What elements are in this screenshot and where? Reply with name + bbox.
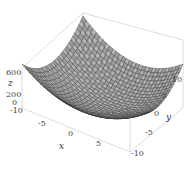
- y-tick-0: 0: [154, 109, 159, 118]
- y-axis-label: y: [165, 112, 172, 122]
- z-tick-600: 600: [6, 68, 21, 77]
- x-tick-neg5: -5: [38, 119, 46, 128]
- paraboloid-surface: [22, 16, 183, 119]
- x-tick-5: 5: [96, 139, 101, 148]
- y-tick-10: 10: [172, 75, 182, 84]
- surface-plot-3d: 600 z 200 0 -10 -5 0 5 x -10 -5 0 5 10 y: [0, 0, 190, 171]
- y-tick-neg10: -10: [131, 149, 144, 158]
- z-axis: 600 z 200 0: [6, 68, 21, 107]
- x-tick-neg10: -10: [10, 106, 23, 115]
- z-axis-label: z: [7, 78, 13, 88]
- y-tick-5: 5: [162, 91, 167, 100]
- x-tick-0: 0: [68, 129, 73, 138]
- x-axis-label: x: [59, 141, 64, 151]
- y-tick-neg5: -5: [145, 128, 153, 137]
